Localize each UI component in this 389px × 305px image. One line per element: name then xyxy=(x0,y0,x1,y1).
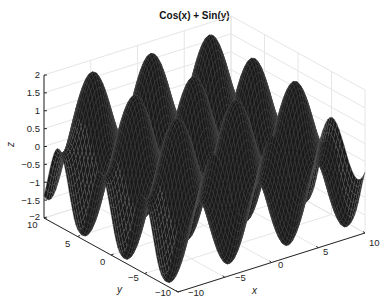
y-tick-label: 5 xyxy=(65,238,70,249)
z-tick-label: 1.5 xyxy=(12,87,40,98)
z-tick-label: 1 xyxy=(12,105,40,116)
x-tick-label: 0 xyxy=(278,259,283,270)
y-axis-label: y xyxy=(117,284,122,295)
z-tick-label: 0 xyxy=(12,141,40,152)
surface-mesh xyxy=(44,35,365,283)
y-tick-label: 10 xyxy=(27,219,38,230)
x-axis-label: x xyxy=(252,285,257,296)
z-tick-label: 2 xyxy=(12,69,40,80)
x-tick-label: −5 xyxy=(235,272,246,283)
z-tick-label: 0.5 xyxy=(12,123,40,134)
x-tick-label: 10 xyxy=(369,237,380,248)
surface-plot xyxy=(0,0,389,305)
x-tick-label: 5 xyxy=(323,246,328,257)
z-tick-label: −1.5 xyxy=(12,195,40,206)
x-tick-label: −10 xyxy=(188,287,204,298)
y-tick-label: −10 xyxy=(155,287,171,298)
y-tick-label: 0 xyxy=(100,256,105,267)
y-tick-label: −5 xyxy=(128,272,139,283)
z-tick-label: −0.5 xyxy=(12,159,40,170)
z-axis-label: z xyxy=(5,142,16,147)
z-tick-label: −1 xyxy=(12,177,40,188)
